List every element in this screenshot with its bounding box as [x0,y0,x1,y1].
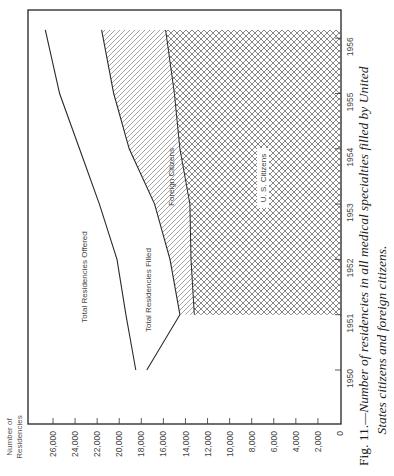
figure-caption-line1: Fig. 11.—Number of residencies in all me… [356,66,371,466]
value-tick-label: 10,000 [225,431,235,457]
value-tick-label: 20,000 [114,431,124,457]
year-tick-label: 1952 [345,258,355,277]
label-us-citizens: U. S. Citizens [259,154,268,202]
value-tick-label: 2,000 [313,431,323,453]
value-tick-label: 4,000 [291,431,301,453]
axis-title-line1: Number of [5,418,14,456]
year-tick-label: 1953 [345,203,355,222]
value-tick-label: 12,000 [203,431,213,457]
value-tick-label: 26,000 [48,431,58,457]
value-tick-label: 8,000 [247,431,257,453]
value-tick-label: 0 [335,431,345,436]
year-tick-label: 1955 [345,92,355,111]
label-total-filled: Total Residencies Filled [144,248,153,332]
value-tick-label: 18,000 [136,431,146,457]
value-tick-label: 24,000 [70,431,80,457]
caption-text: —Number of residencies in all medical sp… [356,66,371,426]
year-tick-label: 1950 [345,369,355,388]
residencies-chart: 02,0004,0006,0008,00010,00012,00014,0001… [0,0,394,476]
label-total-offered: Total Residencies Offered [80,231,89,322]
year-tick-label: 1951 [345,314,355,333]
label-foreign-citizens: Foreign Citizens [167,148,176,206]
figure-caption-line2: States citizens and foreign citizens. [374,246,389,435]
value-tick-label: 16,000 [158,431,168,457]
value-tick-label: 6,000 [269,431,279,453]
value-tick-label: 14,000 [181,431,191,457]
year-tick-label: 1954 [345,148,355,167]
axis-title-line2: Residencies [15,415,24,459]
value-tick-label: 22,000 [92,431,102,457]
year-tick-label: 1956 [345,37,355,56]
caption-prefix: Fig. 11. [356,425,371,466]
